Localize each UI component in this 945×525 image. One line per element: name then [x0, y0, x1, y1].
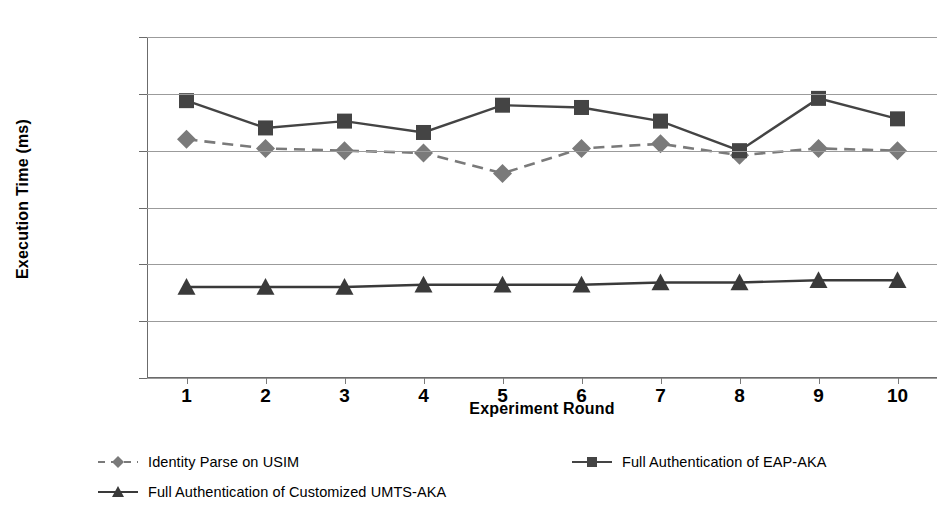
x-tick-mark — [582, 378, 583, 384]
x-tick-mark — [187, 378, 188, 384]
legend-label: Full Authentication of Customized UMTS-A… — [148, 484, 446, 500]
series-line — [187, 139, 898, 173]
y-tick-mark — [139, 208, 147, 209]
square-marker — [890, 111, 905, 126]
plot-area: 25022520017515012510012345678910 — [147, 37, 937, 378]
gridline — [147, 37, 937, 38]
x-tick-mark — [740, 378, 741, 384]
diamond-marker — [177, 130, 196, 149]
square-marker — [179, 93, 194, 108]
gridline — [147, 321, 937, 322]
square-marker — [574, 100, 589, 115]
legend-label: Full Authentication of EAP-AKA — [622, 454, 827, 470]
gridline — [147, 94, 937, 95]
gridline — [147, 208, 937, 209]
diamond-marker — [572, 139, 591, 158]
gridline — [147, 264, 937, 265]
x-tick-mark — [661, 378, 662, 384]
series-0 — [177, 130, 907, 183]
series-line — [187, 98, 898, 150]
legend-item[interactable]: Full Authentication of Customized UMTS-A… — [96, 482, 446, 502]
diamond-marker — [809, 139, 828, 158]
series-1 — [179, 91, 905, 158]
legend-marker-triangle-icon — [96, 485, 140, 499]
y-axis-title: Execution Time (ms) — [14, 99, 32, 299]
square-marker — [258, 120, 273, 135]
x-tick-mark — [266, 378, 267, 384]
y-tick-mark — [139, 264, 147, 265]
legend-marker-diamond-icon — [96, 455, 140, 469]
gridline — [147, 151, 937, 152]
x-tick-mark — [819, 378, 820, 384]
legend-item[interactable]: Full Authentication of EAP-AKA — [570, 452, 827, 472]
y-tick-mark — [139, 94, 147, 95]
legend-item[interactable]: Identity Parse on USIM — [96, 452, 299, 472]
y-tick-mark — [139, 321, 147, 322]
square-marker — [337, 114, 352, 129]
x-tick-mark — [424, 378, 425, 384]
square-marker — [495, 98, 510, 113]
diamond-marker — [493, 164, 512, 183]
line-chart: Execution Time (ms) 25022520017515012510… — [0, 0, 945, 525]
y-tick-mark — [139, 37, 147, 38]
diamond-marker — [256, 139, 275, 158]
legend-label: Identity Parse on USIM — [148, 454, 299, 470]
series-2 — [178, 271, 907, 294]
series-line — [187, 280, 898, 287]
x-tick-mark — [345, 378, 346, 384]
y-tick-mark — [139, 378, 147, 379]
square-marker — [416, 125, 431, 140]
square-marker — [653, 114, 668, 129]
x-tick-mark — [503, 378, 504, 384]
x-axis-title: Experiment Round — [147, 400, 937, 418]
x-tick-mark — [898, 378, 899, 384]
legend-marker-square-icon — [570, 455, 614, 469]
chart-legend: Identity Parse on USIMFull Authenticatio… — [96, 452, 926, 512]
y-tick-mark — [139, 151, 147, 152]
diamond-marker — [414, 143, 433, 162]
